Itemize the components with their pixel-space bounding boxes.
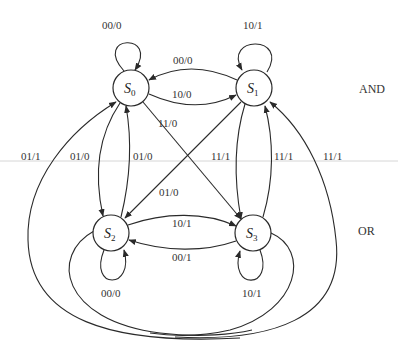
self-loop-s2 — [101, 250, 126, 280]
state-letter: S — [246, 226, 253, 241]
self-loop-s1 — [238, 44, 272, 72]
edge-s1-s0 — [149, 69, 237, 80]
edge-s0-s1 — [149, 94, 236, 105]
state-letter: S — [124, 81, 131, 96]
state-letter: S — [104, 226, 111, 241]
label-s0-s1: 10/0 — [172, 88, 192, 100]
state-s2: S2 — [93, 215, 129, 251]
state-subscript: 1 — [254, 88, 259, 98]
state-s1: S1 — [236, 70, 272, 106]
label-and: AND — [359, 82, 385, 96]
self-loop-s0 — [115, 43, 140, 71]
edge-s3-s2 — [129, 240, 236, 249]
label-self-s3: 10/1 — [242, 287, 262, 299]
state-diagram: S0 S1 S2 S3 00/0 10/1 00/0 10/1 00/0 10/… — [0, 0, 398, 350]
edge-inner-left-s2-s3 — [69, 231, 252, 335]
edge-s0-s2 — [98, 103, 120, 216]
label-s0-s2: 01/0 — [70, 150, 90, 162]
state-letter: S — [247, 81, 254, 96]
state-s3: S3 — [235, 215, 271, 251]
self-loop-s3 — [238, 250, 263, 280]
label-s2-s3: 10/1 — [172, 217, 192, 229]
label-s3-s2: 00/1 — [172, 251, 192, 263]
state-subscript: 3 — [253, 233, 258, 243]
label-s3-s1: 11/1 — [274, 150, 293, 162]
label-s0-s3: 11/0 — [158, 117, 178, 129]
state-s0: S0 — [113, 70, 149, 106]
label-outer-right: 11/1 — [323, 150, 342, 162]
label-s1-s0: 00/0 — [173, 54, 193, 66]
label-s1-s2: 01/0 — [159, 186, 179, 198]
label-self-s2: 00/0 — [101, 287, 121, 299]
label-s1-s3: 11/1 — [211, 150, 230, 162]
label-self-s1: 10/1 — [243, 19, 263, 31]
label-self-s0: 00/0 — [102, 19, 122, 31]
edge-outer-left-s0 — [28, 102, 240, 339]
label-s2-s0: 01/0 — [133, 150, 153, 162]
label-or: OR — [358, 224, 375, 238]
state-subscript: 0 — [131, 88, 136, 98]
label-outer-left: 01/1 — [21, 150, 41, 162]
state-subscript: 2 — [111, 233, 116, 243]
